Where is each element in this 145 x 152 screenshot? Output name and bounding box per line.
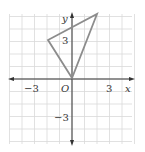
- x-tick-3: 3: [106, 83, 112, 94]
- y-tick-neg3: −3: [54, 112, 69, 123]
- x-axis-label: x: [125, 83, 131, 94]
- origin-label: O: [61, 83, 69, 94]
- y-axis-up-arrow-icon: [70, 12, 74, 18]
- y-axis-label: y: [61, 13, 68, 24]
- x-axis-left-arrow-icon: [8, 77, 14, 81]
- y-axis-down-arrow-icon: [70, 140, 74, 146]
- x-tick-neg3: −3: [24, 83, 39, 94]
- y-tick-3: 3: [62, 35, 68, 46]
- coordinate-plane: y x O −3 3 3 −3: [0, 0, 145, 152]
